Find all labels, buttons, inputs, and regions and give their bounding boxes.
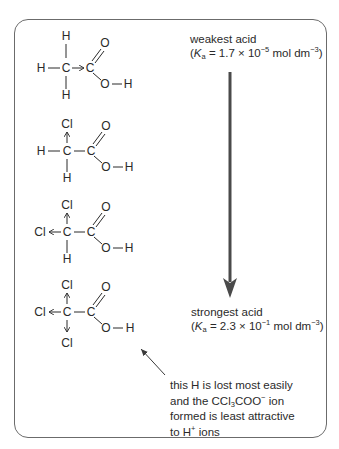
atom-h-bottom: H: [63, 171, 72, 185]
atom-o-hydroxyl: O: [101, 241, 110, 255]
atom-c-alpha: C: [63, 225, 72, 239]
atom-o-hydroxyl: O: [101, 160, 110, 174]
molecule-trichloroethanoic-acid: Cl Cl C C O O H Cl: [34, 278, 134, 350]
atom-o-carbonyl: O: [101, 280, 110, 294]
strongest-acid-title: strongest acid: [191, 305, 324, 319]
atom-h-left: H: [37, 144, 46, 158]
atom-o-hydroxyl: O: [101, 321, 110, 335]
molecule-chloroethanoic-acid: Cl H C C O O H H: [37, 117, 134, 185]
atom-cl-top: Cl: [61, 117, 72, 131]
atom-o-carbonyl: O: [101, 200, 110, 214]
atom-h-bottom: H: [62, 88, 71, 102]
atom-h-bottom: H: [63, 252, 72, 266]
atom-c-alpha: C: [63, 305, 72, 319]
acid-strength-arrow-icon: [223, 72, 237, 298]
pointer-arrow-icon: [141, 349, 165, 375]
weakest-acid-title: weakest acid: [190, 32, 323, 46]
molecule-dichloroethanoic-acid: Cl Cl C C O O H H: [34, 198, 133, 266]
strongest-acid-label: strongest acid (Ka = 2.3 × 10−1 mol dm−3…: [191, 305, 324, 333]
atom-cl-top: Cl: [61, 198, 72, 212]
strongest-acid-ka: (Ka = 2.3 × 10−1 mol dm−3): [191, 319, 324, 333]
atom-h-left: H: [37, 61, 46, 75]
atom-cl-top: Cl: [61, 278, 72, 292]
atom-c-alpha: C: [62, 61, 71, 75]
atom-h-top: H: [62, 29, 71, 43]
atom-o-hydroxyl: O: [100, 77, 109, 91]
atom-o-carbonyl: O: [100, 36, 109, 50]
atom-o-carbonyl: O: [101, 119, 110, 133]
weakest-acid-ka: (Ka = 1.7 × 10−5 mol dm−3): [190, 46, 323, 60]
atom-h-acidic: H: [125, 241, 134, 255]
atom-c-alpha: C: [63, 144, 72, 158]
explanation-note: this H is lost most easily and the CCl3C…: [170, 378, 295, 440]
weakest-acid-label: weakest acid (Ka = 1.7 × 10−5 mol dm−3): [190, 32, 323, 60]
molecule-ethanoic-acid: H H C C O O H H: [37, 29, 133, 102]
atom-h-acidic: H: [126, 321, 135, 335]
atom-cl-left: Cl: [34, 225, 45, 239]
atom-h-acidic: H: [124, 77, 133, 91]
atom-h-acidic: H: [125, 160, 134, 174]
atom-cl-left: Cl: [34, 305, 45, 319]
atom-cl-bottom: Cl: [61, 336, 72, 350]
